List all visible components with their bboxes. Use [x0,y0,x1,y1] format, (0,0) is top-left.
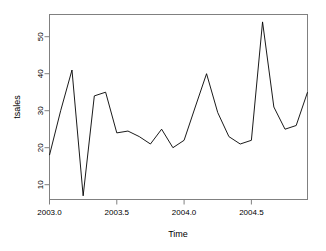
y-tick-label: 40 [36,69,45,78]
x-tick-label: 2004.5 [239,208,264,217]
x-axis-title: Time [168,229,188,239]
x-tick-label: 2004.0 [172,208,197,217]
y-tick-label: 30 [36,106,45,115]
chart-plot-area: 1020304050 2003.02003.52004.02004.5 Time… [0,0,326,251]
y-tick-label: 20 [36,143,45,152]
x-tick-label: 2003.5 [105,208,130,217]
time-series-chart: 1020304050 2003.02003.52004.02004.5 Time… [0,0,326,251]
x-tick-label: 2003.0 [37,208,62,217]
y-tick-label: 10 [36,180,45,189]
y-axis-title: tsales [12,95,22,119]
y-tick-label: 50 [36,32,45,41]
